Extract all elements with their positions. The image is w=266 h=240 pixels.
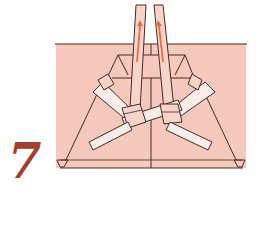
cloth-panel xyxy=(55,44,247,168)
step-number: 7 xyxy=(8,138,38,184)
